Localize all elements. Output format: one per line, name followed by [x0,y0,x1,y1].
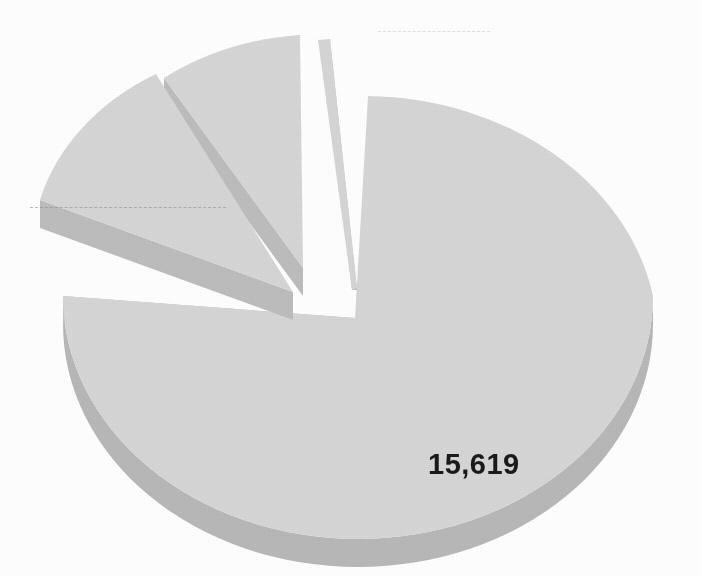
pie-chart-figure: 15,619 [0,0,702,576]
pie-slice-sliver[interactable] [318,39,357,290]
pie-slice-sliver-top [318,39,357,290]
leader-line-left [30,207,226,208]
leader-line-top [378,31,490,32]
pie-data-label-main: 15,619 [428,450,520,479]
pie-chart-graphic [0,0,702,576]
